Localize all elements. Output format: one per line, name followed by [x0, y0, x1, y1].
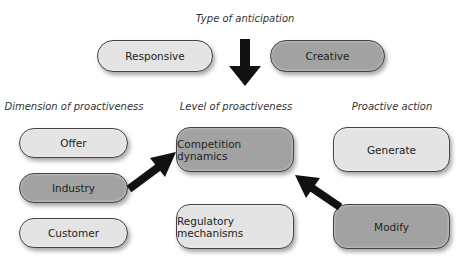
- modify-to-competition-arrow-icon: [295, 175, 340, 207]
- down-arrow-icon: [229, 39, 261, 86]
- industry-to-competition-arrow-icon: [129, 152, 176, 189]
